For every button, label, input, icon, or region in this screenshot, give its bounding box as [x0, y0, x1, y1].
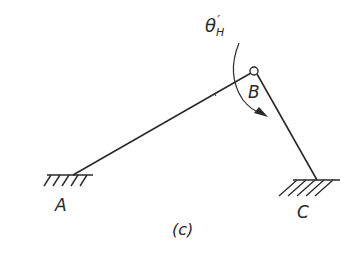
point-label-b: B [248, 84, 260, 101]
angle-label: θH′ [205, 14, 220, 38]
fixed-support-a [44, 175, 93, 186]
angle-subscript: H [216, 26, 224, 39]
member-ab [73, 73, 251, 175]
fixed-support-c [279, 180, 340, 196]
pin-joint-b [250, 67, 258, 75]
angle-symbol: θ [205, 15, 216, 36]
frame-diagram: θH′ A B C (c) [0, 0, 362, 254]
point-label-a: A [55, 197, 67, 214]
arrowhead-icon [254, 107, 268, 117]
point-label-c: C [297, 204, 309, 221]
rotation-arc [233, 43, 262, 114]
figure-caption: (c) [172, 222, 193, 238]
angle-prime: ′ [217, 13, 220, 27]
member-bc [257, 74, 317, 180]
